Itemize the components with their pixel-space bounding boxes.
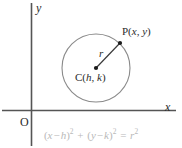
point-p-dot bbox=[118, 41, 122, 45]
radius-label: r bbox=[99, 48, 103, 59]
center-c-label: C(h, k) bbox=[75, 72, 106, 83]
center-point-dot bbox=[94, 66, 98, 70]
x-axis-label: x bbox=[165, 101, 170, 113]
point-p-label: P(x, y) bbox=[122, 26, 151, 37]
circle-equation-caption: (x−h)2 + (y−k)2 = r2 bbox=[0, 127, 182, 141]
circle-diagram: y x O P(x, y) C(h, k) r (x−h)2 + (y−k)2 … bbox=[0, 0, 182, 148]
y-axis-label: y bbox=[36, 2, 41, 14]
